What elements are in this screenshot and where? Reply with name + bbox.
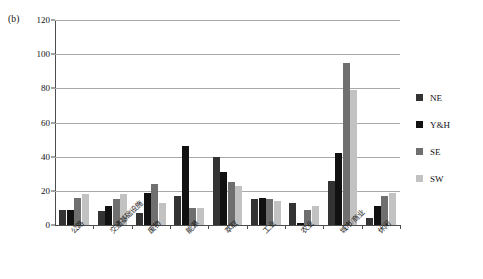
legend-swatch-icon (416, 94, 423, 101)
x-tick-mark (323, 225, 324, 229)
x-tick-mark (132, 225, 133, 229)
bar-group (285, 20, 323, 225)
legend-swatch-icon (416, 175, 423, 182)
bar (105, 206, 112, 225)
bar-group (55, 20, 93, 225)
bar (151, 184, 158, 225)
y-tick-label: 60 (41, 118, 50, 128)
bar (159, 203, 166, 225)
bar-group (362, 20, 400, 225)
x-tick-mark (93, 225, 94, 229)
bar-group (93, 20, 131, 225)
bar (328, 181, 335, 225)
bar (136, 213, 143, 225)
y-tick-label: 0 (46, 220, 51, 230)
bar (374, 206, 381, 225)
bar (144, 193, 151, 225)
bar (220, 172, 227, 225)
bar (274, 201, 281, 225)
legend-label: NE (430, 93, 442, 103)
bar (350, 90, 357, 225)
bar (82, 194, 89, 225)
bar (251, 199, 258, 225)
y-tick-label: 120 (37, 15, 51, 25)
x-tick-mark (208, 225, 209, 229)
y-tick-label: 100 (37, 49, 51, 59)
bar (389, 193, 396, 225)
bars-layer (55, 20, 400, 225)
y-tick-label: 80 (41, 83, 50, 93)
legend-swatch-icon (416, 121, 423, 128)
bar-group (170, 20, 208, 225)
bar (182, 146, 189, 225)
bar (67, 210, 74, 225)
legend-swatch-icon (416, 148, 423, 155)
y-tick-label: 20 (41, 186, 50, 196)
x-tick-mark (170, 225, 171, 229)
bar (235, 186, 242, 225)
x-tick-mark (362, 225, 363, 229)
bar (174, 196, 181, 225)
x-tick-mark (285, 225, 286, 229)
legend-label: SE (430, 147, 441, 157)
bar (343, 63, 350, 225)
bar-group (323, 20, 361, 225)
bar (289, 203, 296, 225)
y-tick-label: 40 (41, 152, 50, 162)
bar (335, 153, 342, 225)
bar (213, 157, 220, 225)
legend-item-sw[interactable]: SW (416, 165, 478, 192)
legend-label: SW (430, 174, 444, 184)
bar (228, 182, 235, 225)
legend-item-y-h[interactable]: Y&H (416, 111, 478, 138)
plot-area: 020406080100120 公路交通基础设施废物能源萃取工业农业城市/商业休… (55, 20, 400, 225)
bar-group (132, 20, 170, 225)
legend: NEY&HSESW (416, 84, 478, 192)
bar (259, 198, 266, 225)
bar-group (247, 20, 285, 225)
x-tick-mark (400, 225, 401, 229)
figure-panel-b: (b) 020406080100120 公路交通基础设施废物能源萃取工业农业城市… (0, 0, 483, 279)
bar (59, 210, 66, 225)
legend-item-ne[interactable]: NE (416, 84, 478, 111)
bar (366, 218, 373, 225)
x-tick-mark (247, 225, 248, 229)
bar (312, 206, 319, 225)
panel-label: (b) (8, 14, 20, 24)
legend-label: Y&H (430, 120, 450, 130)
legend-item-se[interactable]: SE (416, 138, 478, 165)
bar (98, 211, 105, 225)
bar-group (208, 20, 246, 225)
